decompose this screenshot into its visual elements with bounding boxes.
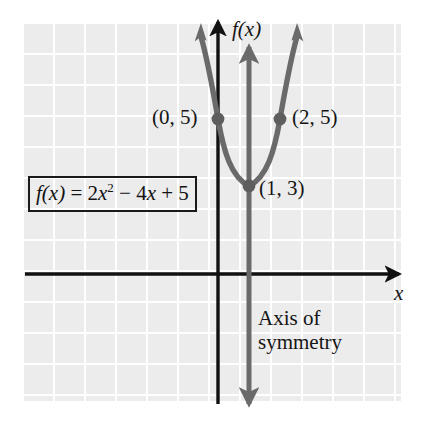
point-label-2-5: (2, 5) xyxy=(292,106,338,130)
equation-term-b: − 4 xyxy=(114,181,147,205)
equation-term-c: + 5 xyxy=(156,181,189,205)
point-marker-vertex-1-3 xyxy=(243,180,256,193)
point-marker-0-5 xyxy=(212,113,225,126)
axis-of-symmetry-label: Axis of symmetry xyxy=(258,307,342,354)
axis-of-symmetry-label-line1: Axis of xyxy=(258,307,342,331)
y-axis-label: f(x) xyxy=(232,18,261,42)
point-label-vertex: (1, 3) xyxy=(259,177,305,201)
point-label-0-5: (0, 5) xyxy=(152,106,198,130)
equation-box: f(x) = 2x2 − 4x + 5 xyxy=(28,176,197,212)
equation-coef-a: 2 xyxy=(88,181,99,205)
parabola-figure: f(x) x (0, 5) (2, 5) (1, 3) Axis of symm… xyxy=(0,0,421,421)
point-marker-2-5 xyxy=(274,113,287,126)
equation-lhs: f(x) xyxy=(36,181,65,205)
axis-of-symmetry-label-line2: symmetry xyxy=(258,331,342,355)
equation-var-x2: x xyxy=(147,181,156,205)
x-axis-label: x xyxy=(394,282,403,306)
equation-equals: = xyxy=(65,181,87,205)
equation-var-x: x xyxy=(98,181,107,205)
